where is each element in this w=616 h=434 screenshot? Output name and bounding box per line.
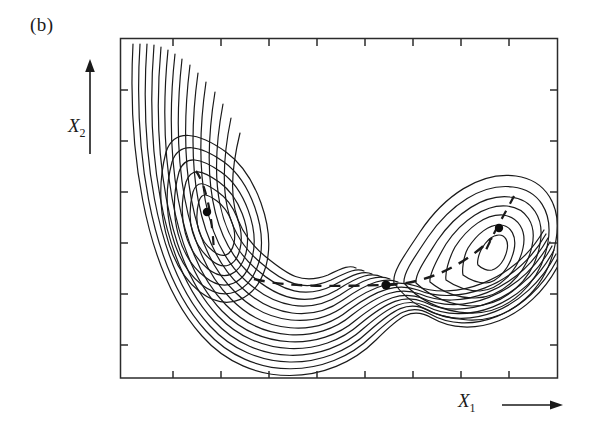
contour-lines: [132, 44, 560, 376]
left-minimum-point: [203, 208, 211, 216]
axes-frame: [121, 39, 558, 379]
contour-plot: [0, 0, 616, 434]
right-normal-mode-ellipse: [486, 196, 514, 250]
saddle-point: [381, 280, 390, 289]
right-minimum-point: [495, 224, 503, 232]
figure-panel: (b) X2 X1: [0, 0, 616, 434]
